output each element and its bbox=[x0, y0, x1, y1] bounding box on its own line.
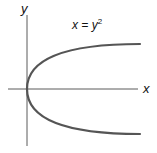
equation-main: x = y bbox=[71, 18, 99, 32]
x-axis-label: x bbox=[142, 81, 150, 96]
parabola-diagram: y x x = y2 bbox=[0, 0, 157, 153]
equation-exponent: 2 bbox=[98, 17, 103, 26]
equation-label: x = y2 bbox=[71, 17, 103, 32]
y-axis-label: y bbox=[20, 1, 29, 16]
